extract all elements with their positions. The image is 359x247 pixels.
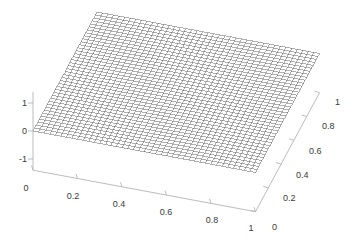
surface-plot-figure: 1 0 -1 0 0.2 0.4 0.6 0.8 1 0 0.2 0.4 0.6… bbox=[0, 0, 359, 247]
x-tick-label-1: 0.2 bbox=[67, 192, 80, 201]
y-tick-3 bbox=[289, 139, 294, 141]
y-tick-2 bbox=[276, 163, 281, 165]
y-tick-label-4: 0.8 bbox=[322, 122, 335, 131]
plot-canvas bbox=[0, 0, 359, 247]
y-tick-label-0: 0 bbox=[272, 223, 277, 232]
y-tick-label-2: 0.4 bbox=[296, 171, 309, 180]
x-tick-label-3: 0.6 bbox=[160, 208, 173, 217]
x-tick-label-4: 0.8 bbox=[206, 216, 219, 225]
x-tick-label-5: 1 bbox=[248, 224, 253, 233]
surface-mesh bbox=[33, 12, 320, 173]
x-tick-label-2: 0.4 bbox=[113, 200, 126, 209]
y-tick-5 bbox=[315, 91, 320, 93]
y-tick-4 bbox=[302, 115, 307, 117]
y-tick-label-1: 0.2 bbox=[283, 194, 296, 203]
z-tick-label-0: 1 bbox=[22, 99, 27, 108]
y-tick-label-5: 1 bbox=[335, 98, 340, 107]
x-tick-label-0: 0 bbox=[23, 184, 28, 193]
y-tick-1 bbox=[263, 186, 268, 188]
y-tick-label-3: 0.6 bbox=[309, 147, 322, 156]
z-tick-label-2: -1 bbox=[19, 155, 27, 164]
z-tick-label-1: 0 bbox=[22, 127, 27, 136]
